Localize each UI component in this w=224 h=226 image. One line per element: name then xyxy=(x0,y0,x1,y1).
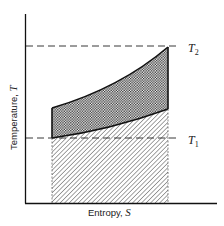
t2-label: T2 xyxy=(188,41,199,57)
ts-diagram: T2 T1 Entropy, S Temperature, T xyxy=(0,0,224,226)
y-axis-label: Temperature, T xyxy=(7,84,19,150)
x-axis-label: Entropy, S xyxy=(88,206,131,218)
t1-label: T1 xyxy=(188,133,199,149)
